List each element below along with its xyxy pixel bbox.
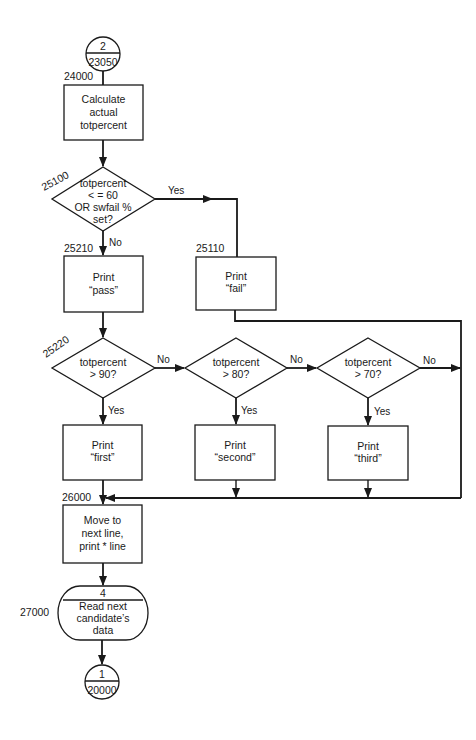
decision-fail-line-3: OR swfail % — [74, 201, 131, 213]
decision-90-yes: Yes — [108, 405, 124, 416]
print-first-line-2: “first” — [91, 451, 115, 463]
decision-70-line-1: totpercent — [345, 356, 392, 368]
decision-90-line-1: totpercent — [80, 356, 127, 368]
start-connector-top: 2 — [100, 40, 106, 52]
read-next-line-3: data — [93, 624, 114, 636]
decision-80-no: No — [290, 354, 303, 365]
step-label-25210: 25210 — [64, 242, 93, 254]
read-next-header: 4 — [100, 587, 106, 599]
decision-80-line-1: totpercent — [213, 356, 260, 368]
calc-line-2: actual — [89, 106, 117, 118]
start-connector-bottom: 23050 — [88, 56, 117, 68]
calc-line-1: Calculate — [82, 93, 126, 105]
decision-fail-line-2: < = 60 — [88, 189, 118, 201]
decision-fail-yes: Yes — [168, 185, 184, 196]
move-line-3: print * line — [79, 540, 126, 552]
step-label-27000: 27000 — [20, 606, 49, 618]
decision-90-no: No — [157, 354, 170, 365]
print-fail-line-2: “fail” — [226, 282, 247, 294]
decision-fail-line-1: totpercent — [80, 177, 127, 189]
decision-70-line-2: > 70? — [355, 368, 382, 380]
end-connector-bottom: 20000 — [87, 684, 116, 696]
calc-line-3: totpercent — [80, 119, 127, 131]
print-third-line-1: Print — [357, 440, 379, 452]
print-second-line-2: “second” — [215, 451, 256, 463]
read-next-line-1: Read next — [79, 600, 127, 612]
decision-70-no: No — [423, 355, 436, 366]
step-label-25220: 25220 — [40, 333, 71, 360]
decision-80-line-2: > 80? — [223, 368, 250, 380]
print-second-line-1: Print — [224, 439, 246, 451]
flowchart: 2 23050 24000 Calculate actual totpercen… — [0, 0, 476, 740]
read-next-line-2: candidate’s — [77, 612, 130, 624]
step-label-26000: 26000 — [62, 491, 91, 503]
step-label-25100: 25100 — [39, 168, 71, 192]
print-fail-line-1: Print — [225, 270, 247, 282]
print-pass-line-2: “pass” — [89, 284, 119, 296]
step-label-25110: 25110 — [196, 242, 225, 254]
decision-70-yes: Yes — [374, 406, 390, 417]
end-connector-top: 1 — [99, 668, 105, 680]
move-line-2: next line, — [81, 527, 123, 539]
move-line-1: Move to — [84, 514, 122, 526]
print-pass-line-1: Print — [93, 271, 115, 283]
flow-line-fail-return — [235, 310, 461, 498]
print-third-line-2: “third” — [354, 452, 382, 464]
print-first-line-1: Print — [92, 439, 114, 451]
decision-90-line-2: > 90? — [90, 368, 117, 380]
decision-fail-no: No — [109, 237, 122, 248]
decision-80-yes: Yes — [241, 405, 257, 416]
step-label-24000: 24000 — [64, 70, 93, 82]
decision-fail-line-4: set? — [93, 213, 113, 225]
